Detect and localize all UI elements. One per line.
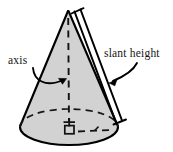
axis-label: axis bbox=[8, 54, 28, 66]
slant-height-label: slant height bbox=[104, 47, 160, 60]
slant-height-leader-arrow bbox=[109, 63, 137, 86]
cone-diagram-figure: axis slant height bbox=[0, 0, 173, 152]
cone-axis-dashed-line bbox=[68, 18, 69, 122]
slant-height-leader-curve bbox=[113, 63, 137, 81]
cone-diagram-svg: axis slant height bbox=[0, 0, 173, 152]
